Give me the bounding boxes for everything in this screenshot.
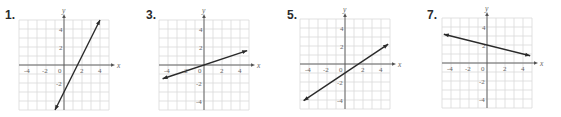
y-tick-label: 4 (340, 25, 344, 33)
y-axis-label: y (61, 6, 66, 15)
problem-number: 7. (427, 8, 437, 22)
y-axis-label: y (484, 4, 489, 13)
x-axis-label: x (256, 61, 261, 70)
x-tick-label: 0 (58, 67, 62, 75)
y-tick-label: -2 (479, 78, 485, 86)
y-tick-label: -2 (56, 80, 62, 88)
arrowhead-icon (96, 20, 100, 25)
y-tick-label: 2 (199, 44, 203, 52)
axes: xy-4-202442-2-4 (159, 6, 261, 110)
x-tick-label: 2 (361, 66, 365, 74)
x-tick-label: -4 (164, 67, 170, 75)
plotted-line (304, 44, 389, 100)
y-tick-label: -4 (479, 96, 485, 104)
y-tick-label: 2 (482, 42, 486, 50)
y-axis-label: y (201, 6, 206, 15)
y-tick-label: 2 (59, 44, 63, 52)
y-tick-label: 4 (482, 24, 486, 32)
y-tick-label: -4 (337, 97, 343, 105)
axes: xy-4-202442-2 (19, 6, 121, 110)
x-tick-label: 4 (379, 66, 383, 74)
arrowhead-icon (55, 105, 59, 110)
graph-1: xy-4-202442-2 (19, 6, 121, 110)
x-tick-label: 4 (238, 67, 242, 75)
problem-number: 3. (146, 8, 156, 22)
x-tick-label: 0 (339, 66, 343, 74)
x-tick-label: -4 (24, 67, 30, 75)
y-tick-label: 4 (199, 26, 203, 34)
y-tick-label: 2 (340, 43, 344, 51)
arrowhead-icon (242, 50, 247, 54)
x-tick-label: 2 (503, 65, 507, 73)
x-tick-label: 2 (80, 67, 84, 75)
x-axis-arrow-icon (251, 63, 255, 67)
x-tick-label: -2 (465, 65, 471, 73)
x-tick-label: -2 (323, 66, 329, 74)
graph-2: xy-4-202442-2-4 (159, 6, 261, 110)
y-axis-label: y (342, 5, 347, 14)
x-axis-arrow-icon (534, 61, 538, 65)
x-tick-label: 4 (521, 65, 525, 73)
graphs-canvas: xy-4-202442-2xy-4-202442-2-4xy-4-202442-… (0, 0, 561, 117)
problem-number: 1. (5, 8, 15, 22)
x-tick-label: -4 (305, 66, 311, 74)
y-tick-label: 4 (59, 26, 63, 34)
x-tick-label: 0 (198, 67, 202, 75)
graph-3: xy-4-202442-2-4 (300, 5, 402, 109)
y-tick-label: -2 (196, 80, 202, 88)
y-tick-label: -2 (337, 79, 343, 87)
graph-4: xy-4-202442-2-4 (442, 4, 544, 108)
x-tick-label: 0 (481, 65, 485, 73)
problem-number: 5. (287, 8, 297, 22)
x-axis-arrow-icon (111, 63, 115, 67)
x-axis-label: x (397, 60, 402, 69)
x-axis-label: x (539, 59, 544, 68)
x-axis-label: x (116, 61, 121, 70)
y-tick-label: -4 (196, 98, 202, 106)
x-tick-label: -2 (42, 67, 48, 75)
x-tick-label: 2 (220, 67, 224, 75)
x-axis-arrow-icon (392, 62, 396, 66)
x-tick-label: 4 (98, 67, 102, 75)
x-tick-label: -4 (447, 65, 453, 73)
arrowhead-icon (163, 75, 168, 79)
